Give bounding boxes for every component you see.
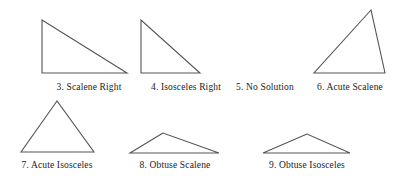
figure-label-5: 5. No Solution xyxy=(236,82,294,93)
figure-label-9: 9. Obtuse Isosceles xyxy=(269,160,345,171)
figure-label-8: 8. Obtuse Scalene xyxy=(140,160,211,171)
triangle-shape-8 xyxy=(130,133,219,153)
figure-label-4: 4. Isosceles Right xyxy=(151,82,221,93)
triangle-shape-9 xyxy=(263,134,350,153)
triangle-shape-4 xyxy=(141,20,200,73)
figure-label-7: 7. Acute Isosceles xyxy=(21,160,92,171)
triangle-classification-diagram: 3. Scalene Right 4. Isosceles Right 5. N… xyxy=(0,0,398,183)
triangle-shape-7 xyxy=(21,101,94,152)
figure-label-6: 6. Acute Scalene xyxy=(317,82,383,93)
figure-label-3: 3. Scalene Right xyxy=(57,82,122,93)
triangle-shape-3 xyxy=(42,20,127,73)
triangle-shape-6 xyxy=(314,10,385,73)
